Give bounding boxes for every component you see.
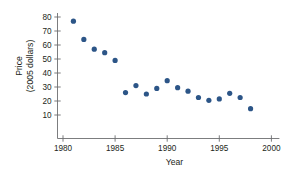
- y-tick-label: 50: [42, 55, 52, 64]
- y-axis-title-line2: (2005 dollars): [25, 40, 35, 93]
- y-tick-label: 30: [42, 83, 52, 92]
- x-tick-label: 1985: [106, 144, 125, 153]
- x-tick-label: 1995: [210, 144, 229, 153]
- y-tick-label: 40: [42, 69, 52, 78]
- data-point: [238, 95, 243, 100]
- y-tick-label: 60: [42, 41, 52, 50]
- y-axis: 1020304050607080: [42, 13, 60, 139]
- data-point: [113, 58, 118, 63]
- x-tick-label: 2000: [262, 144, 281, 153]
- y-tick-label: 70: [42, 27, 52, 36]
- scatter-plot-figure: 1020304050607080 19801985199019952000 Ye…: [0, 0, 297, 177]
- data-point: [217, 96, 222, 101]
- data-point: [154, 86, 159, 91]
- data-point: [71, 19, 76, 24]
- data-point: [248, 106, 253, 111]
- x-axis: 19801985199019952000: [54, 135, 281, 152]
- data-point: [175, 85, 180, 90]
- data-point: [92, 47, 97, 52]
- y-axis-title-line1: Price: [14, 56, 24, 76]
- data-point: [206, 98, 211, 103]
- data-point: [81, 37, 86, 42]
- data-point: [144, 91, 149, 96]
- data-point: [123, 90, 128, 95]
- data-point: [196, 95, 201, 100]
- x-axis-title: Year: [166, 157, 184, 167]
- data-point: [165, 78, 170, 83]
- y-tick-label: 20: [42, 97, 52, 106]
- data-point: [133, 83, 138, 88]
- data-point: [102, 50, 107, 55]
- data-points-layer: [71, 19, 253, 112]
- x-tick-label: 1980: [54, 144, 73, 153]
- chart-canvas: 1020304050607080 19801985199019952000 Ye…: [0, 0, 297, 177]
- y-tick-label: 80: [42, 13, 52, 22]
- y-tick-label: 10: [42, 111, 52, 120]
- data-point: [227, 91, 232, 96]
- x-tick-label: 1990: [158, 144, 177, 153]
- data-point: [185, 89, 190, 94]
